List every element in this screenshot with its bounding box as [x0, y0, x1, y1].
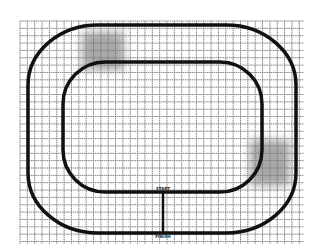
- track-diagram: START FINISH: [0, 0, 319, 252]
- start-label: START: [156, 186, 170, 191]
- finish-label: FINISH: [155, 234, 170, 239]
- inner-track-loop: [63, 62, 262, 192]
